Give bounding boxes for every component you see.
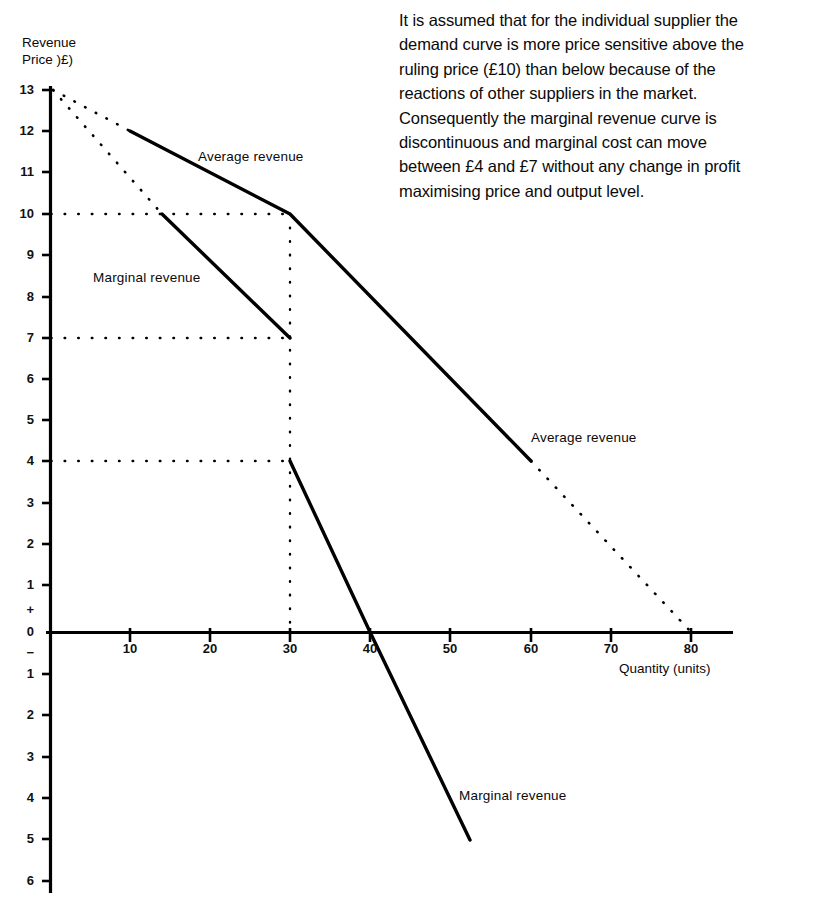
annotation-marginal-revenue-upper: Marginal revenue [93,270,201,285]
axes [46,86,733,893]
y-tick-label-12: 12 [8,123,34,138]
annotation-average-revenue-upper: Average revenue [198,149,304,164]
x-axis-title: Quantity (units) [619,661,711,676]
y-axis-minus-sign: − [8,645,34,660]
y-tick-label-6: 6 [8,371,34,386]
average-revenue-upper-dotted [53,90,130,131]
y-tick-label-10: 10 [8,206,34,221]
y-tick-label-8: 8 [8,289,34,304]
annotation-average-revenue-lower: Average revenue [531,430,637,445]
y-tick-label-neg-5: 5 [8,831,34,846]
y-tick-label-3: 3 [8,495,34,510]
y-tick-label-neg-6: 6 [8,873,34,888]
x-tick-label-60: 60 [514,641,548,656]
y-axis-plus-sign: + [8,602,34,617]
y-tick-label-0: 0 [8,624,34,639]
x-tick-label-40: 40 [353,641,387,656]
marginal-revenue-upper-dotted [53,90,162,214]
x-tick-label-10: 10 [113,641,147,656]
x-tick-label-20: 20 [193,641,227,656]
annotation-marginal-revenue-lower: Marginal revenue [459,788,567,803]
y-tick-label-2: 2 [8,536,34,551]
y-tick-label-13: 13 [8,82,34,97]
y-tick-label-1: 1 [8,577,34,592]
explanation-paragraph: It is assumed that for the individual su… [399,8,817,203]
kinked-demand-curve-figure: Revenue Price )£) Quantity (units) 13 12… [0,0,825,915]
x-tick-label-70: 70 [594,641,628,656]
average-revenue-lower-dotted [531,461,691,632]
x-axis-ticks [130,628,691,642]
x-tick-label-80: 80 [674,641,708,656]
x-tick-label-30: 30 [273,641,307,656]
y-tick-label-neg-3: 3 [8,749,34,764]
y-tick-label-neg-1: 1 [8,666,34,681]
x-tick-label-50: 50 [433,641,467,656]
y-tick-label-7: 7 [8,330,34,345]
y-tick-label-11: 11 [8,164,34,179]
y-tick-label-9: 9 [8,247,34,262]
y-tick-label-5: 5 [8,412,34,427]
y-tick-label-neg-2: 2 [8,707,34,722]
y-tick-label-neg-4: 4 [8,790,34,805]
y-tick-label-4: 4 [8,453,34,468]
y-axis-title: Revenue Price )£) [22,34,76,68]
